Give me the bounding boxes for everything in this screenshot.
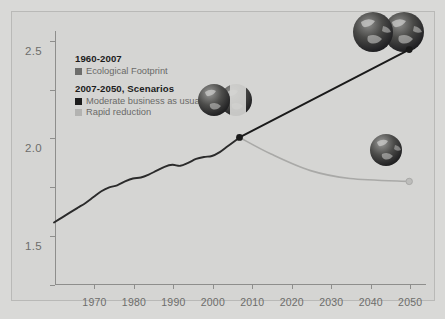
legend-item-moderate-business-as-usual: Moderate business as usual: [75, 96, 225, 106]
x-tick-label: 2010: [240, 296, 264, 308]
x-tick-mark: 2010: [252, 285, 253, 289]
x-tick-label: 1990: [161, 296, 185, 308]
x-tick-label: 2000: [201, 296, 225, 308]
legend-group-two-title: 2007-2050, Scenarios: [75, 83, 225, 94]
x-tick-mark: 2020: [292, 285, 293, 289]
x-tick-label: 2020: [280, 296, 304, 308]
legend-label-moderate-business-as-usual: Moderate business as usual: [86, 96, 202, 106]
x-tick-label: 2050: [398, 296, 422, 308]
legend-group-one-title: 1960-2007: [75, 53, 225, 64]
x-tick-mark: 1970: [94, 285, 95, 289]
chart-legend: 1960-2007 Ecological Footprint 2007-2050…: [75, 53, 225, 118]
x-tick-mark: 2030: [331, 285, 332, 289]
x-tick-mark: 2040: [371, 285, 372, 289]
chart-panel: 0.00.51.01.52.02.5 197019801990200020102…: [11, 11, 435, 301]
y-tick-mark: 1.0: [50, 187, 55, 188]
x-tick-label: 2040: [359, 296, 383, 308]
legend-label-rapid-reduction: Rapid reduction: [86, 107, 151, 117]
y-tick-label: 2.0: [25, 142, 42, 154]
chart-screenshot: 0.00.51.01.52.02.5 197019801990200020102…: [0, 0, 445, 319]
x-tick-label: 1970: [82, 296, 106, 308]
y-tick-mark: 0.5: [50, 236, 55, 237]
y-tick-label: 1.5: [25, 240, 42, 252]
y-tick-mark: 1.5: [50, 138, 55, 139]
y-tick-label: 2.5: [25, 45, 42, 57]
legend-label-ecological-footprint: Ecological Footprint: [86, 66, 168, 76]
x-tick-mark: 2050: [410, 285, 411, 289]
y-tick-mark: 2.0: [50, 90, 55, 91]
legend-swatch-rapid-reduction: [75, 109, 82, 116]
x-tick-mark: 2000: [213, 285, 214, 289]
legend-item-rapid-reduction: Rapid reduction: [75, 107, 225, 117]
y-axis-line: [55, 31, 56, 285]
x-tick-label: 2030: [319, 296, 343, 308]
x-tick-mark: 1990: [173, 285, 174, 289]
legend-swatch-ecological-footprint: [75, 68, 82, 75]
y-tick-mark: 2.5: [50, 41, 55, 42]
x-tick-label: 1980: [122, 296, 146, 308]
y-tick-mark: 0.0: [50, 285, 55, 286]
legend-item-ecological-footprint: Ecological Footprint: [75, 66, 225, 76]
legend-swatch-moderate-business-as-usual: [75, 98, 82, 105]
x-tick-mark: 1980: [134, 285, 135, 289]
